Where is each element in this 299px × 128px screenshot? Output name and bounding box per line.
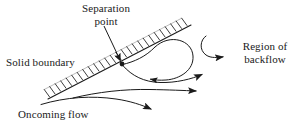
streamline-recirculation-loop bbox=[151, 39, 194, 80]
boundary-hatch-edge bbox=[44, 18, 182, 89]
streamline-dividing-upper bbox=[123, 47, 156, 65]
label-solid-boundary: Solid boundary bbox=[6, 56, 75, 69]
streamline-backflow-hook bbox=[201, 36, 223, 57]
separation-point-pointer bbox=[104, 26, 120, 61]
label-region-of-backflow: Region of backflow bbox=[234, 40, 296, 65]
label-oncoming-flow: Oncoming flow bbox=[18, 108, 89, 121]
label-separation-point: Separation point bbox=[70, 2, 142, 27]
separation-diagram: Separation point Solid boundary Region o… bbox=[0, 0, 299, 128]
streamlines bbox=[41, 36, 223, 109]
